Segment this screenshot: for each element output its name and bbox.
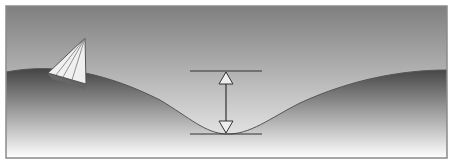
wave-height-diagram xyxy=(0,0,453,166)
